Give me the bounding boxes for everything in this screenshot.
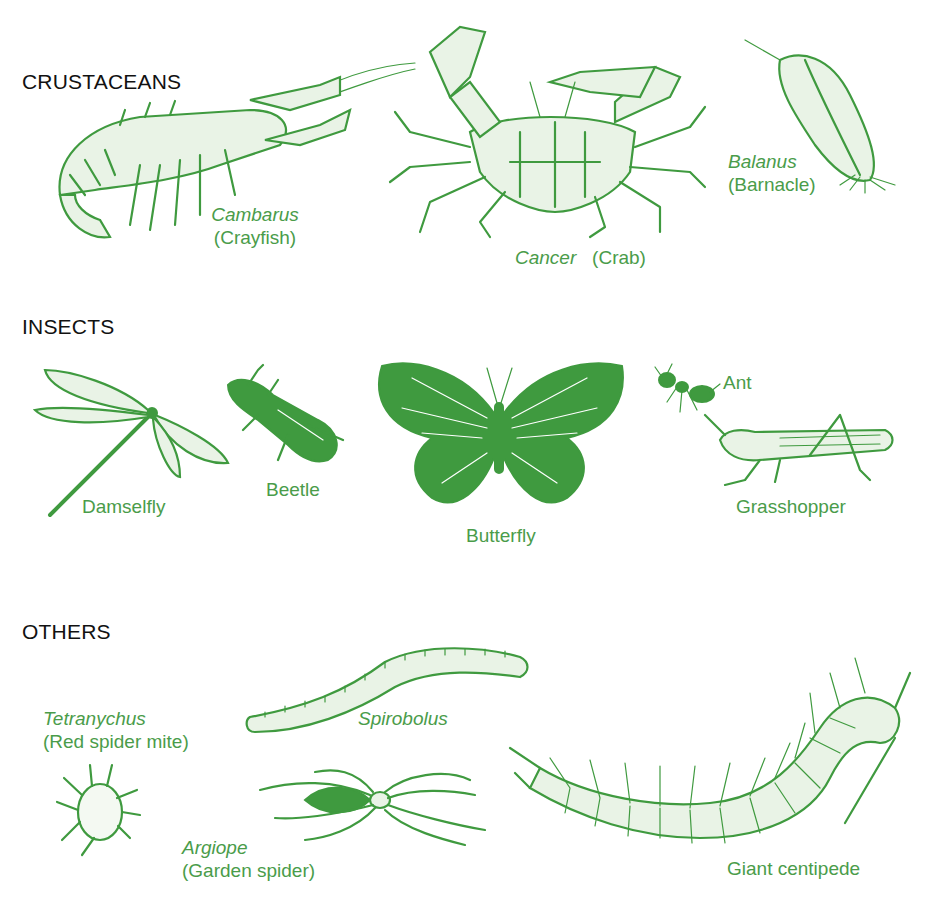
label-garden-spider: Argiope (Garden spider) [182,836,315,882]
label-grasshopper: Grasshopper [736,495,846,518]
ant-illustration [652,362,722,417]
label-butterfly: Butterfly [466,524,536,547]
label-red-spider-mite: Tetranychus (Red spider mite) [43,707,189,753]
label-crab: Cancer (Crab) [515,246,646,269]
label-giant-centipede: Giant centipede [727,857,860,880]
red-spider-mite-illustration [52,760,147,860]
label-barnacle: Balanus (Barnacle) [728,150,816,196]
grasshopper-illustration [700,410,900,490]
section-heading-insects: INSECTS [22,315,114,339]
label-crayfish: Cambarus (Crayfish) [200,203,310,249]
label-beetle: Beetle [266,478,320,501]
crab-illustration [390,22,720,247]
section-heading-others: OTHERS [22,620,111,644]
label-ant: Ant [723,371,752,394]
butterfly-illustration [372,358,627,518]
beetle-illustration [218,365,348,470]
label-millipede: Spirobolus [358,707,448,730]
label-damselfly: Damselfly [82,495,165,518]
giant-centipede-illustration [510,648,920,868]
